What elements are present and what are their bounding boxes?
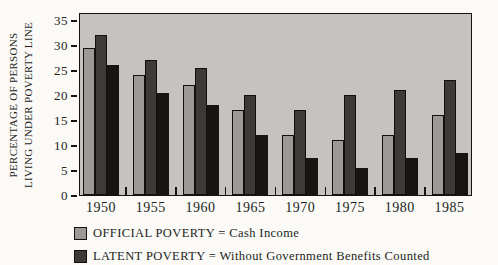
- bar-1980-series1: [394, 90, 406, 195]
- y-tick-mark: [71, 120, 77, 122]
- x-tick-label-1960: 1960: [176, 200, 226, 216]
- bar-1960-series1: [195, 68, 207, 196]
- y-tick-mark: [71, 95, 77, 97]
- bar-1960-series0: [183, 85, 195, 195]
- x-axis-minor-tick: [325, 187, 327, 195]
- bar-1980-series2: [406, 158, 418, 196]
- y-tick-label-25: 25: [30, 63, 68, 79]
- legend-label-official: OFFICIAL POVERTY = Cash Income: [93, 225, 299, 242]
- x-axis-minor-tick: [125, 187, 127, 195]
- y-tick-label-20: 20: [30, 88, 68, 104]
- x-axis-minor-tick: [275, 187, 277, 195]
- x-tick-label-1965: 1965: [225, 200, 275, 216]
- y-tick-mark: [71, 170, 77, 172]
- bar-1970-series1: [294, 110, 306, 195]
- y-tick-label-15: 15: [30, 113, 68, 129]
- x-tick-label-1970: 1970: [275, 200, 325, 216]
- bar-1960-series2: [207, 105, 219, 195]
- x-axis-minor-tick: [175, 187, 177, 195]
- legend-label-latent: LATENT POVERTY = Without Government Bene…: [93, 248, 430, 265]
- x-tick-label-1975: 1975: [325, 200, 375, 216]
- x-tick-label-1950: 1950: [76, 200, 126, 216]
- bar-1950-series1: [95, 35, 107, 195]
- bar-1985-series0: [432, 115, 444, 195]
- x-axis-ticks: 19501955196019651970197519801985: [80, 200, 472, 218]
- x-axis-minor-tick: [424, 187, 426, 195]
- bar-1975-series1: [344, 95, 356, 195]
- bar-1985-series2: [456, 153, 468, 196]
- bar-1980-series0: [382, 135, 394, 195]
- y-tick-mark: [71, 70, 77, 72]
- bar-1985-series1: [444, 80, 456, 195]
- bar-1975-series0: [332, 140, 344, 195]
- bar-1950-series2: [107, 65, 119, 195]
- y-tick-label-0: 0: [30, 188, 68, 204]
- latent-poverty-swatch-icon: [74, 250, 87, 263]
- plot-area: [79, 13, 472, 196]
- x-tick-label-1980: 1980: [375, 200, 425, 216]
- x-axis-minor-tick: [225, 187, 227, 195]
- bar-1965-series2: [256, 135, 268, 195]
- y-tick-mark: [71, 20, 77, 22]
- y-tick-label-30: 30: [30, 38, 68, 54]
- bar-1975-series2: [356, 168, 368, 196]
- bar-1965-series0: [232, 110, 244, 195]
- x-axis-minor-tick: [374, 187, 376, 195]
- y-tick-mark: [71, 195, 77, 197]
- bar-1970-series2: [306, 158, 318, 196]
- x-tick-label-1985: 1985: [425, 200, 475, 216]
- y-tick-mark: [71, 45, 77, 47]
- y-tick-label-5: 5: [30, 163, 68, 179]
- x-tick-label-1955: 1955: [126, 200, 176, 216]
- figure: PERCENTAGE OF PERSONS LIVING UNDER POVER…: [0, 0, 498, 265]
- y-tick-label-10: 10: [30, 138, 68, 154]
- official-poverty-swatch-icon: [74, 227, 87, 240]
- y-tick-label-35: 35: [30, 13, 68, 29]
- bar-1970-series0: [282, 135, 294, 195]
- bar-1955-series2: [157, 93, 169, 196]
- y-axis-title-line1: PERCENTAGE OF PERSONS: [6, 5, 21, 205]
- bar-1955-series0: [133, 75, 145, 195]
- bar-1950-series0: [83, 48, 95, 196]
- bar-1955-series1: [145, 60, 157, 195]
- y-tick-mark: [71, 145, 77, 147]
- bar-1965-series1: [244, 95, 256, 195]
